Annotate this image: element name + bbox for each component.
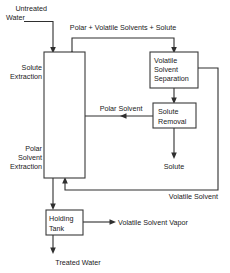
flow-diagram-canvas: Untreated Water Solute Extraction Polar … [0,0,230,273]
recycle-stream-label: Polar + Volatile Solvents + Solute [70,23,176,32]
untreated-water-label-line1: Untreated [15,4,47,13]
volatile-solvent-separation-label-line1: Volatile [154,56,177,65]
polar-solvent-extraction-label-line2: Solvent [18,153,42,162]
treated-water-label: Treated Water [55,258,101,267]
volatile-solvent-separation-label-line3: Separation [154,74,189,83]
untreated-water-label-line2: Water [6,13,26,22]
solute-output-arrowhead [171,153,177,160]
solute-removal-label-line1: Solute [158,107,178,116]
polar-solvent-extraction-label-line3: Extraction [10,162,42,171]
solute-extraction-label-line1: Solute [22,63,42,72]
volatile-solvent-vapor-label: Volatile Solvent Vapor [118,218,188,227]
volatile-solvent-separation-label-line2: Solvent [154,65,178,74]
solute-extraction-label-line2: Extraction [10,72,42,81]
holding-tank-label-line2: Tank [49,224,65,233]
untreated-water-feed-line [24,22,53,49]
treated-water-arrowhead [50,248,56,255]
polar-solvent-extraction-label-line1: Polar [25,144,42,153]
extraction-column-box[interactable] [44,52,85,178]
process-flow-diagram: Untreated Water Solute Extraction Polar … [0,0,230,273]
holding-tank-label-line1: Holding [49,214,73,223]
polar-solvent-arrowhead [120,113,127,119]
solute-output-label: Solute [164,162,184,171]
vapor-output-arrowhead [110,219,117,225]
column-to-holding-tank-arrowhead [50,204,56,211]
volatile-solvent-return-label: Volatile Solvent [169,192,218,201]
solute-removal-label-line2: Removal [158,117,187,126]
polar-solvent-label: Polar Solvent [100,104,143,113]
